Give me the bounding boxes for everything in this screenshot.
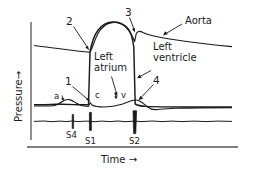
leader-line-aorta xyxy=(163,24,182,35)
curve-label-left-atrium-line2: atrium xyxy=(94,63,127,74)
marker-label-2: 2 xyxy=(66,16,73,27)
heart-sound-spike-s4 xyxy=(72,115,73,129)
leader-line-left-ventricle xyxy=(137,71,151,79)
leader-line-marker-2 xyxy=(74,27,90,51)
x-axis-label: Time → xyxy=(101,155,137,166)
figure-cardiac-pressure-curves: 2 3 1 4 a c v Aorta Left ventricle Left … xyxy=(0,0,258,172)
wave-label-c: c xyxy=(95,91,100,100)
leader-line-marker-4 xyxy=(139,85,154,101)
heart-sound-label-s2: S2 xyxy=(129,137,140,146)
leader-line-left-atrium xyxy=(112,77,118,97)
wave-label-v: v xyxy=(121,91,126,100)
y-axis-label: Pressure→ xyxy=(14,71,25,122)
heart-sound-spike-s1 xyxy=(89,112,91,130)
left-ventricle-pressure-curve xyxy=(34,22,232,107)
heart-sound-spike-s2 xyxy=(133,111,137,134)
wave-label-a: a xyxy=(54,92,59,101)
marker-label-4: 4 xyxy=(153,75,160,86)
curve-label-left-ventricle-line2: ventricle xyxy=(153,53,197,64)
curve-label-left-ventricle: Left ventricle xyxy=(153,42,197,64)
pressure-time-plot xyxy=(0,0,258,172)
leader-line-marker-3 xyxy=(130,18,136,33)
curve-label-aorta: Aorta xyxy=(185,16,212,27)
curve-label-left-atrium: Left atrium xyxy=(94,52,127,74)
marker-label-3: 3 xyxy=(125,7,132,18)
leader-line-marker-1 xyxy=(73,87,90,103)
heart-sound-label-s4: S4 xyxy=(66,131,77,140)
heart-sound-label-s1: S1 xyxy=(85,137,96,146)
marker-label-1: 1 xyxy=(65,76,72,87)
